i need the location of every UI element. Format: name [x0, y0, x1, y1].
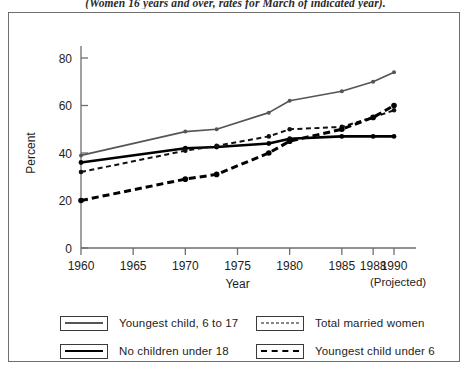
axes	[81, 46, 416, 248]
legend-entry-total-married-women: Total married women	[256, 312, 425, 334]
svg-text:1990: 1990	[381, 259, 408, 273]
legend-swatch-solid-black-icon	[60, 344, 108, 359]
svg-text:1985: 1985	[328, 259, 355, 273]
legend-swatch-dotted-icon	[256, 316, 304, 331]
legend-label: Total married women	[315, 317, 425, 329]
legend-swatch-dashed-icon	[256, 344, 304, 359]
series-3	[78, 103, 397, 204]
svg-text:1960: 1960	[68, 259, 95, 273]
legend-entry-no-children-under-18: No children under 18	[60, 340, 229, 362]
series-2	[79, 108, 397, 174]
figure-caption: (Women 16 years and over, rates for Marc…	[0, 0, 471, 9]
svg-text:1975: 1975	[224, 259, 251, 273]
axis-tick-labels: 0204060801960196519701975198019851988199…	[59, 52, 408, 274]
data-series	[78, 70, 397, 203]
svg-text:20: 20	[59, 194, 73, 208]
chart-legend: Youngest child, 6 to 17 No children unde…	[60, 312, 460, 364]
legend-entry-youngest-child-6-to-17: Youngest child, 6 to 17	[60, 312, 238, 334]
svg-text:80: 80	[59, 52, 73, 66]
line-chart: 0204060801960196519701975198019851988199…	[9, 13, 461, 363]
legend-label: Youngest child, 6 to 17	[119, 317, 238, 329]
svg-text:40: 40	[59, 147, 73, 161]
svg-text:1970: 1970	[172, 259, 199, 273]
chart-frame: 0204060801960196519701975198019851988199…	[8, 12, 460, 362]
svg-text:1965: 1965	[120, 259, 147, 273]
svg-text:0: 0	[65, 242, 72, 256]
svg-text:1980: 1980	[276, 259, 303, 273]
series-0	[79, 70, 396, 157]
x-axis-label: Year	[225, 277, 249, 291]
legend-swatch-solid-gray-icon	[60, 316, 108, 331]
projected-note: (Projected)	[370, 276, 426, 288]
y-axis-label: Percent	[24, 132, 38, 174]
svg-text:60: 60	[59, 99, 73, 113]
legend-entry-youngest-child-under-6: Youngest child under 6	[256, 340, 435, 362]
legend-label: No children under 18	[119, 345, 229, 357]
series-1	[79, 134, 397, 165]
legend-label: Youngest child under 6	[315, 345, 435, 357]
